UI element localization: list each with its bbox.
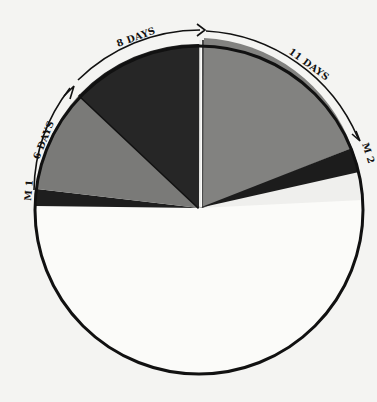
label-eight-days: 8 DAYS bbox=[115, 25, 157, 49]
pie-diagram: M 1 6 DAYS 8 DAYS 11 DAYS M 2 bbox=[0, 0, 377, 402]
label-m2: M 2 bbox=[360, 141, 377, 165]
arrow-eleven-days-icon bbox=[352, 131, 360, 141]
arrow-six-days-icon bbox=[64, 86, 74, 99]
label-m1: M 1 bbox=[22, 179, 35, 201]
